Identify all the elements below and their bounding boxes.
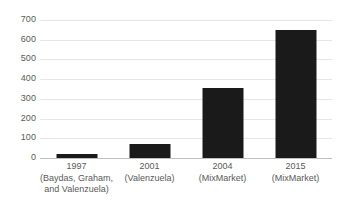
y-tick-label-400: 400 (0, 74, 36, 83)
y-tick-label-500: 500 (0, 54, 36, 63)
plot-area (40, 20, 332, 158)
bar (56, 154, 97, 158)
x-tick-label: 2015(MixMarket) (248, 161, 344, 184)
x-axis-line (40, 158, 332, 159)
x-tick-source: (MixMarket) (248, 173, 344, 185)
bar (129, 144, 170, 158)
y-tick-label-300: 300 (0, 94, 36, 103)
bar-slot (113, 20, 186, 158)
bar (202, 88, 243, 158)
x-tick-year: 2015 (248, 161, 344, 173)
bar-series (40, 20, 332, 158)
bar-slot (40, 20, 113, 158)
bar-slot (259, 20, 332, 158)
y-tick-label-200: 200 (0, 114, 36, 123)
bar-slot (186, 20, 259, 158)
y-tick-label-100: 100 (0, 133, 36, 142)
bar (275, 30, 316, 158)
x-tick-source-cont: and Valenzuela) (29, 184, 125, 196)
y-tick-label-700: 700 (0, 15, 36, 24)
x-axis-tick-labels: 1997(Baydas, Graham,and Valenzuela)2001(… (40, 161, 332, 211)
bar-chart: 0100200300400500600700 1997(Baydas, Grah… (0, 0, 350, 212)
y-tick-label-600: 600 (0, 35, 36, 44)
